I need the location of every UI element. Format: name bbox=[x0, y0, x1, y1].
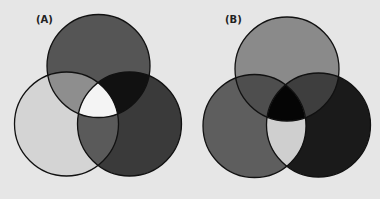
panel-a-label: (A) bbox=[36, 14, 53, 25]
panel-b-label: (B) bbox=[225, 14, 242, 25]
venn-diagrams-svg: (A) bbox=[0, 0, 380, 199]
venn-diagram-figure: (A) bbox=[0, 0, 380, 199]
